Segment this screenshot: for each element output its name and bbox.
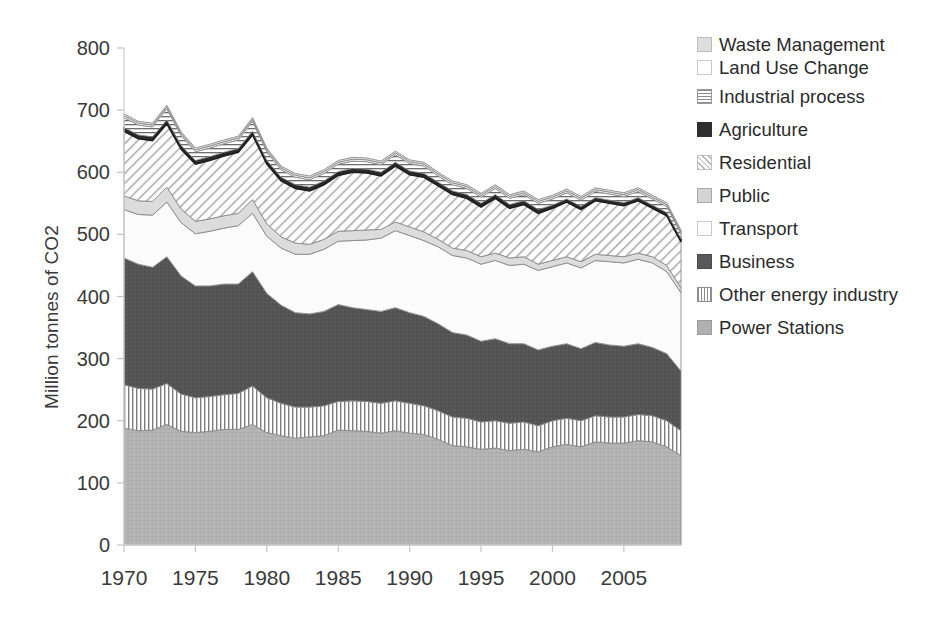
legend-item-power-stations[interactable]: Power Stations (697, 316, 930, 339)
legend-item-other-energy-industry[interactable]: Other energy industry (697, 283, 930, 306)
svg-text:1985: 1985 (315, 566, 362, 589)
transport-swatch (697, 221, 712, 236)
waste-swatch (697, 37, 712, 52)
legend-item-waste-management[interactable]: Waste Management (697, 33, 930, 56)
svg-text:1970: 1970 (101, 566, 148, 589)
svg-text:1975: 1975 (172, 566, 219, 589)
area-series-power-stations (124, 424, 681, 545)
legend-item-business[interactable]: Business (697, 250, 930, 273)
svg-text:500: 500 (77, 223, 110, 245)
legend-item-label: Transport (719, 217, 798, 240)
svg-text:2000: 2000 (529, 566, 576, 589)
legend-item-agriculture[interactable]: Agriculture (697, 118, 930, 141)
legend-item-transport[interactable]: Transport (697, 217, 930, 240)
industrial-process-swatch (697, 89, 712, 104)
legend-item-label: Agriculture (719, 118, 808, 141)
svg-text:700: 700 (77, 99, 110, 121)
legend-item-label: Land Use Change (719, 56, 869, 79)
public-swatch (697, 188, 712, 203)
legend-item-public[interactable]: Public (697, 184, 930, 207)
legend-item-land-use-change[interactable]: Land Use Change (697, 56, 930, 79)
svg-text:100: 100 (77, 472, 110, 494)
svg-text:800: 800 (77, 37, 110, 59)
other-energy-industry-swatch (697, 287, 712, 302)
legend-item-label: Waste Management (719, 33, 885, 56)
area-series-group (124, 105, 681, 545)
x-axis-ticks: 19701975198019851990199520002005 (101, 545, 648, 589)
chart-legend: Waste ManagementLand Use ChangeIndustria… (697, 33, 930, 339)
svg-text:2005: 2005 (601, 566, 648, 589)
legend-item-label: Power Stations (719, 316, 844, 339)
y-axis-ticks: 0100200300400500600700800 (77, 37, 124, 556)
svg-text:1990: 1990 (386, 566, 433, 589)
svg-text:200: 200 (77, 410, 110, 432)
legend-item-residential[interactable]: Residential (697, 151, 930, 174)
power-stations-swatch (697, 320, 712, 335)
residential-swatch (697, 155, 712, 170)
stacked-area-chart: Million tonnes of CO2 (0, 0, 930, 620)
svg-text:600: 600 (77, 161, 110, 183)
legend-item-label: Other energy industry (719, 283, 898, 306)
svg-text:0: 0 (99, 534, 110, 556)
business-swatch (697, 254, 712, 269)
land-use-change-swatch (697, 60, 712, 75)
legend-item-label: Industrial process (719, 85, 865, 108)
agriculture-swatch (697, 122, 712, 137)
svg-text:300: 300 (77, 348, 110, 370)
svg-text:400: 400 (77, 286, 110, 308)
svg-text:1995: 1995 (458, 566, 505, 589)
legend-item-label: Public (719, 184, 770, 207)
legend-item-label: Residential (719, 151, 811, 174)
legend-item-industrial-process[interactable]: Industrial process (697, 85, 930, 108)
svg-text:1980: 1980 (243, 566, 290, 589)
legend-item-label: Business (719, 250, 794, 273)
